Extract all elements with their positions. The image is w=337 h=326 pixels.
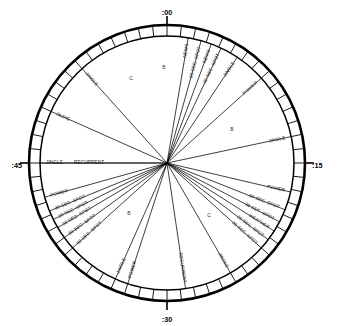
spoke-label: RECURRENT xyxy=(178,252,187,283)
minute-tick xyxy=(41,107,51,111)
minute-tick xyxy=(32,189,43,191)
spoke-label: NEWS xyxy=(202,49,212,64)
minute-tick xyxy=(252,257,259,265)
hot-clock-figure: NEWS60 SEC. SPOTNEWS30 SEC. SPOTJINGLEPO… xyxy=(0,0,337,326)
minute-tick xyxy=(64,71,72,78)
minute-tick xyxy=(283,107,293,111)
minute-tick xyxy=(288,202,298,205)
segment-letter: C xyxy=(129,75,133,81)
minute-tick xyxy=(206,284,209,294)
quarter-label: :00 xyxy=(162,8,172,17)
segment-letter: B xyxy=(230,126,234,132)
spoke-label: NEWS xyxy=(182,43,189,58)
minute-tick xyxy=(75,257,82,265)
minute-tick xyxy=(75,60,82,68)
minute-tick xyxy=(242,266,248,275)
clock-svg: NEWS60 SEC. SPOTNEWS30 SEC. SPOTJINGLEPO… xyxy=(0,0,337,326)
minute-tick xyxy=(193,28,195,39)
minute-tick xyxy=(55,238,64,244)
spoke-label: JINGLE xyxy=(222,61,236,78)
minute-tick xyxy=(47,227,57,233)
minute-tick xyxy=(293,176,304,177)
minute-tick xyxy=(153,26,154,37)
minute-tick xyxy=(277,94,287,100)
minute-tick xyxy=(111,37,115,47)
minute-tick xyxy=(180,289,181,300)
minute-tick xyxy=(193,287,195,298)
minute-tick xyxy=(252,60,259,68)
spoke-label: JINGLE xyxy=(84,71,99,87)
minute-tick xyxy=(36,120,46,123)
quarter-label: :30 xyxy=(162,315,172,324)
minute-tick xyxy=(231,273,237,283)
minute-tick xyxy=(86,266,92,275)
minute-tick xyxy=(98,273,104,283)
minute-tick xyxy=(153,289,154,300)
quarter-label: :15 xyxy=(312,161,322,170)
segment-letter: B xyxy=(162,64,166,70)
spoke-label: POWER xyxy=(242,80,259,96)
minute-tick xyxy=(32,134,43,136)
minute-tick xyxy=(111,279,115,289)
minute-tick xyxy=(138,28,140,39)
minute-tick xyxy=(86,51,92,60)
minute-tick xyxy=(64,248,72,255)
segment-letter: B xyxy=(127,210,131,216)
minute-tick xyxy=(180,26,181,37)
minute-tick xyxy=(124,284,127,294)
minute-tick xyxy=(261,71,269,78)
minute-tick xyxy=(293,149,304,150)
minute-tick xyxy=(98,43,104,53)
quarter-mark-group: :00:15:30:45 xyxy=(12,8,323,324)
spoke-label: JINGLE xyxy=(268,135,286,143)
minute-tick xyxy=(277,227,287,233)
minute-tick xyxy=(242,51,248,60)
spoke-label: 60 SEC. SPOT xyxy=(188,46,202,79)
minute-tick xyxy=(30,176,41,177)
minute-tick xyxy=(138,287,140,298)
minute-tick xyxy=(30,149,41,150)
spoke-label: POWER xyxy=(267,184,286,193)
minute-tick xyxy=(283,215,293,219)
minute-tick xyxy=(270,82,279,88)
minute-tick xyxy=(270,238,279,244)
spoke-label: POWER xyxy=(50,188,69,198)
minute-tick xyxy=(219,37,223,47)
minute-tick xyxy=(47,94,57,100)
minute-tick xyxy=(231,43,237,53)
spoke-label: POWER xyxy=(127,259,138,278)
minute-tick xyxy=(124,32,127,42)
minute-tick xyxy=(41,215,51,219)
minute-tick xyxy=(219,279,223,289)
spoke-label: JINGLE xyxy=(46,160,63,165)
minute-tick xyxy=(55,82,64,88)
minute-tick xyxy=(206,32,209,42)
minute-tick xyxy=(291,189,302,191)
spoke-label: JINGLE xyxy=(217,252,230,269)
quarter-label: :45 xyxy=(12,161,22,170)
segment-letter: C xyxy=(207,212,211,218)
minute-tick xyxy=(288,120,298,123)
minute-tick xyxy=(261,248,269,255)
spoke-label: OLDIE xyxy=(56,111,71,121)
minute-tick xyxy=(291,134,302,136)
minute-tick xyxy=(36,202,46,205)
spoke-label: JINGLE xyxy=(115,257,126,275)
spoke-label: RECURRENT xyxy=(74,160,104,165)
